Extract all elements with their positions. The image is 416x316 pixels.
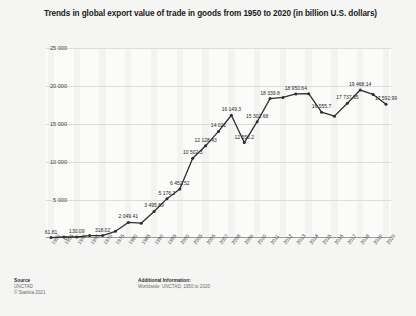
data-point bbox=[50, 236, 53, 239]
additional-info-block: Additional Information: Worldwide; UNCTA… bbox=[138, 278, 210, 290]
data-label: 19 468.14 bbox=[349, 81, 371, 87]
data-label: 18 950.64 bbox=[285, 85, 307, 91]
data-point bbox=[62, 236, 65, 239]
data-point bbox=[269, 97, 272, 100]
series-line bbox=[46, 48, 391, 238]
data-point bbox=[281, 96, 284, 99]
data-label: 2 049.41 bbox=[119, 213, 138, 219]
data-label: 130.09 bbox=[69, 228, 84, 234]
data-label: 10 502.3 bbox=[183, 149, 202, 155]
data-point bbox=[217, 130, 220, 133]
data-point bbox=[385, 103, 388, 106]
data-label: 14 021 bbox=[211, 122, 226, 128]
data-point bbox=[243, 141, 246, 144]
data-point bbox=[230, 114, 233, 117]
data-label: 12 556.2 bbox=[235, 134, 254, 140]
data-label: 6 452.52 bbox=[170, 180, 189, 186]
data-point bbox=[307, 92, 310, 95]
source-copyright: © Statista 2021 bbox=[14, 290, 45, 296]
data-point bbox=[88, 234, 91, 237]
data-point bbox=[178, 187, 181, 190]
data-point bbox=[294, 92, 297, 95]
data-point bbox=[114, 230, 117, 233]
data-point bbox=[320, 111, 323, 114]
data-point bbox=[333, 115, 336, 118]
data-point bbox=[191, 157, 194, 160]
data-label: 16 149.3 bbox=[222, 106, 241, 112]
data-point bbox=[127, 221, 130, 224]
data-point bbox=[153, 210, 156, 213]
data-label: 61.81 bbox=[45, 229, 58, 235]
data-label: 318.02 bbox=[95, 227, 110, 233]
data-label: 12 128.43 bbox=[194, 137, 216, 143]
chart-page: Trends in global export value of trade i… bbox=[0, 0, 416, 316]
data-label: 17 592.99 bbox=[375, 95, 397, 101]
data-point bbox=[359, 89, 362, 92]
data-point bbox=[346, 102, 349, 105]
chart-footer: Source UNCTAD © Statista 2021 Additional… bbox=[0, 276, 416, 316]
data-label: 15 302.68 bbox=[246, 113, 268, 119]
data-point bbox=[101, 234, 104, 237]
data-point bbox=[204, 144, 207, 147]
data-label: 16 555.7 bbox=[312, 103, 331, 109]
additional-detail: Worldwide; UNCTAD; 1950 to 2020 bbox=[138, 284, 210, 290]
data-points bbox=[50, 89, 388, 239]
data-point bbox=[165, 197, 168, 200]
source-block: Source UNCTAD © Statista 2021 bbox=[14, 278, 45, 296]
data-label: 3 495.69 bbox=[144, 202, 163, 208]
data-label: 17 737.95 bbox=[336, 94, 358, 100]
data-point bbox=[256, 120, 259, 123]
data-point bbox=[140, 222, 143, 225]
data-point bbox=[75, 236, 78, 239]
chart-title: Trends in global export value of trade i… bbox=[38, 8, 383, 19]
data-label: 5 176.2 bbox=[159, 190, 176, 196]
data-label: 18 339.8 bbox=[260, 90, 279, 96]
